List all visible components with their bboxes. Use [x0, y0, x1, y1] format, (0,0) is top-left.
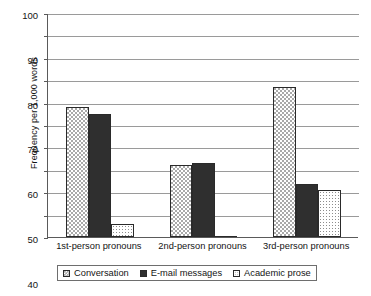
bar-chart: Frequency per 1,000 words 10090807060504… [0, 0, 371, 296]
bar [318, 190, 341, 237]
y-axis-tick: 20 [44, 193, 48, 194]
y-axis-tick-label: 80 [27, 99, 38, 110]
legend-label: Conversation [74, 268, 129, 278]
y-axis-tick: 10 [44, 216, 48, 217]
y-axis-tick-label: 50 [27, 234, 38, 245]
y-axis-tick-label: 90 [27, 54, 38, 65]
legend-label: E-mail messages [151, 268, 222, 278]
y-axis-tick-label: 40 [27, 278, 38, 289]
legend-label: Academic prose [244, 268, 311, 278]
bar [192, 163, 215, 237]
x-axis-labels: 1st-person pronouns2nd-person pronouns3r… [47, 241, 358, 257]
gridline [48, 104, 359, 105]
x-axis-label-3: 3rd-person pronouns [254, 241, 358, 257]
gridline [48, 81, 359, 82]
chart-legend: ConversationE-mail messagesAcademic pros… [57, 265, 317, 281]
bar [296, 184, 319, 237]
y-axis-tick: 30 [44, 171, 48, 172]
bar [215, 236, 238, 237]
y-axis-tick: 60 [44, 104, 48, 105]
y-axis-tick-label: 60 [27, 189, 38, 200]
y-axis-title: Frequency per 1,000 words [29, 18, 39, 208]
gridline [48, 14, 359, 15]
bar [170, 165, 193, 237]
y-axis-tick: 80 [44, 59, 48, 60]
y-axis-tick: 70 [44, 81, 48, 82]
legend-item-email[interactable]: E-mail messages [140, 268, 222, 278]
y-axis-tick: 50 [44, 126, 48, 127]
legend-item-academic[interactable]: Academic prose [233, 268, 311, 278]
bar [89, 114, 112, 237]
y-axis-tick: 90 [44, 36, 48, 37]
y-axis-tick-label: 100 [22, 10, 38, 21]
legend-swatch-icon [63, 270, 70, 277]
y-axis-tick: 0 [44, 238, 48, 239]
bar [273, 87, 296, 237]
x-axis-label-2: 2nd-person pronouns [151, 241, 255, 257]
plot-area: 1009080706050403020100 [47, 14, 358, 238]
bar [66, 107, 89, 237]
legend-swatch-icon [140, 270, 147, 277]
bar [111, 224, 134, 237]
legend-swatch-icon [233, 270, 240, 277]
y-axis-tick-label: 70 [27, 144, 38, 155]
y-axis-tick: 100 [44, 14, 48, 15]
gridline [48, 36, 359, 37]
x-axis-label-1: 1st-person pronouns [47, 241, 151, 257]
y-axis-tick: 40 [44, 148, 48, 149]
gridline [48, 59, 359, 60]
legend-item-conversation[interactable]: Conversation [63, 268, 129, 278]
